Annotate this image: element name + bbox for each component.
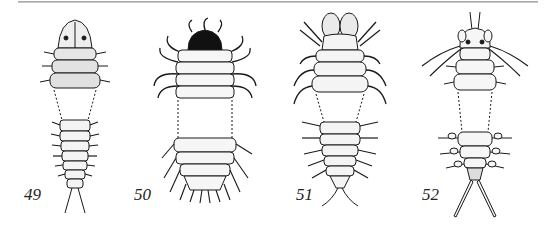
larva-50-drawing (140, 8, 270, 223)
figure-50: 50 (140, 8, 270, 223)
top-rule (18, 1, 538, 3)
figure-label-50: 50 (134, 185, 151, 205)
figure-label-51: 51 (296, 185, 313, 205)
figure-label-52: 52 (422, 185, 439, 205)
figure-label-49: 49 (24, 185, 41, 205)
figure-51: 51 (280, 8, 400, 223)
figure-49: 49 (20, 8, 130, 223)
figure-52: 52 (410, 8, 540, 223)
